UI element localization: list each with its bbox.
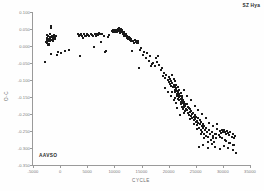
x-axis-tick [114,165,115,168]
data-point [213,141,215,143]
data-point [154,65,156,67]
data-point [211,131,213,133]
y-axis-tick-label: 0.050 [19,27,30,32]
data-point [201,113,203,115]
data-point [68,49,70,51]
data-point [196,124,198,126]
x-axis-tick-label: 5000 [82,169,92,174]
data-point [228,142,230,144]
data-point [140,47,142,49]
data-point [193,123,195,125]
y-axis-tick-label: -0.050 [18,61,30,66]
data-point [206,131,208,133]
data-point [50,27,52,29]
data-point [207,141,209,143]
data-point [176,107,178,109]
x-axis-tick-label: 15000 [136,169,148,174]
data-point [194,105,196,107]
data-point [155,57,157,59]
x-axis-title: CYCLE [32,178,250,183]
x-axis-tick-label: 35000 [244,169,256,174]
y-axis-tick-label: -0.100 [18,78,30,83]
y-axis-tick-label: 0.000 [19,44,30,49]
data-point [131,50,133,52]
data-point [208,122,210,124]
data-point [149,55,151,57]
data-point [64,50,66,52]
data-point [219,148,221,150]
data-point [179,114,181,116]
data-point [174,97,176,99]
data-point [223,145,225,147]
data-point [183,89,185,91]
data-point [196,128,198,130]
data-point [82,37,84,39]
plot-data-area [33,12,250,165]
data-point [93,46,95,48]
y-axis-tick-label: -0.300 [18,146,30,151]
data-source-label: AAVSO [39,153,57,158]
data-point [142,54,144,56]
data-point [138,67,140,69]
data-point [143,51,145,53]
data-point [108,34,110,36]
data-point [158,64,160,66]
data-point [219,136,221,138]
data-point [178,89,180,91]
data-point [202,144,204,146]
y-axis-tick-label: -0.150 [18,95,30,100]
data-point [171,74,173,76]
x-axis-tick-label: 25000 [190,169,202,174]
x-axis-tick-label: 10000 [108,169,120,174]
data-point [186,109,188,111]
data-point [60,52,62,54]
data-point [189,118,191,120]
x-axis-tick-label: 20000 [163,169,175,174]
data-point [163,72,165,74]
x-axis-tick [196,165,197,168]
x-axis-tick [142,165,143,168]
data-point [100,41,102,43]
data-point [227,147,229,149]
data-point [55,35,57,37]
data-point [232,144,234,146]
oc-diagram-figure: SZ Hya AAVSO 0.1000.0500.000-0.050-0.100… [0,0,264,191]
data-point [157,55,159,57]
y-axis-tick [30,12,33,13]
plot-frame: AAVSO 0.1000.0500.000-0.050-0.100-0.150-… [32,12,250,166]
data-point [174,80,176,82]
data-point [205,117,207,119]
data-point [207,136,209,138]
data-point [156,61,158,63]
data-point [183,112,185,114]
x-axis-tick [87,165,88,168]
data-point [145,57,147,59]
y-axis-tick-label: 0.100 [19,10,30,15]
data-point [152,62,154,64]
data-point [56,54,58,56]
data-point [215,133,217,135]
data-point [186,103,188,105]
data-point [167,91,169,93]
data-point [139,49,141,51]
x-axis-tick [250,165,251,168]
data-point [207,147,209,149]
data-point [234,135,236,137]
data-point [209,133,211,135]
data-point [208,129,210,131]
data-point [171,91,173,93]
data-point [215,137,217,139]
data-point [161,67,163,69]
y-axis-tick-label: -0.250 [18,129,30,134]
data-point [224,139,226,141]
y-axis-tick [30,63,33,64]
data-point [203,137,205,139]
data-point [177,86,179,88]
data-point [146,52,148,54]
data-point [48,44,50,46]
data-point [235,152,237,154]
y-axis-tick [30,148,33,149]
y-axis-tick [30,46,33,47]
x-axis-tick-label: -5000 [28,169,39,174]
x-axis-tick [60,165,61,168]
